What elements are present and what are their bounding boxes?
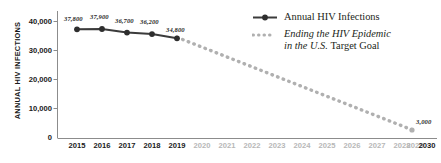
data-point-2018 [149,31,155,37]
solid-line-marker-icon [252,11,278,23]
legend-label-target-goal-line2-italic: in the U.S. [284,40,330,51]
series-annual-hiv-infections [74,26,180,41]
data-point-2019 [174,35,180,41]
chart-legend: Annual HIV Infections Ending the HIV Epi… [252,11,441,56]
legend-label-target-goal-block: Ending the HIV Epidemic in the U.S. Targ… [284,28,391,51]
hiv-infections-line-chart: ANNUAL HIV INFECTIONS 40,000 30,000 20,0… [0,0,441,163]
legend-label-target-goal-line2: in the U.S. Target Goal [284,40,391,52]
data-label-2015: 37,800 [64,15,83,22]
data-point-2016 [99,26,105,32]
data-label-2018: 36,200 [140,18,159,25]
data-label-2017: 36,700 [115,17,134,24]
x-tick-2030: 2030 [411,141,441,150]
dotted-line-marker-icon [252,28,278,40]
data-point-2017 [124,30,130,36]
legend-label-annual-hiv-infections: Annual HIV Infections [284,11,380,23]
data-label-2030: 3,000 [416,118,431,125]
target-goal-endpoint-marker [409,127,414,132]
legend-item-annual-hiv-infections: Annual HIV Infections [252,11,441,23]
legend-label-target-goal-line2-roman: Target Goal [330,40,379,51]
data-label-2016: 37,900 [90,13,109,20]
data-point-2015 [74,26,80,32]
legend-item-target-goal: Ending the HIV Epidemic in the U.S. Targ… [252,28,441,51]
data-label-2019: 34,800 [166,26,185,33]
legend-label-target-goal-line1: Ending the HIV Epidemic [284,28,391,40]
